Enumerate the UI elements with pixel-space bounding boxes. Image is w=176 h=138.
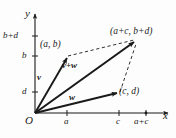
vector-arrows bbox=[35, 42, 134, 113]
x-tick-label-a: a bbox=[64, 117, 69, 126]
vector-v-plus-w-arrow bbox=[35, 42, 134, 113]
vector-label-v-plus-w: v+w bbox=[62, 61, 77, 70]
x-tick-label-a-plus-c: a+c bbox=[134, 117, 149, 126]
y-tick-label-b-plus-d: b+d bbox=[3, 31, 18, 40]
origin-label: O bbox=[25, 115, 33, 126]
point-label-ab: (a, b) bbox=[40, 40, 61, 50]
y-axis-label: y bbox=[25, 8, 30, 19]
vector-addition-figure: y x O b+d b d a c a+c (a, b) (c, d) (a+c… bbox=[0, 0, 176, 138]
x-axis-point-a-plus-c bbox=[145, 112, 148, 115]
x-tick-label-c: c bbox=[116, 117, 120, 126]
point-label-cd: (c, d) bbox=[119, 87, 139, 97]
vector-label-v: v bbox=[37, 73, 41, 82]
x-axis-label: x bbox=[163, 110, 168, 121]
point-label-sum: (a+c, b+d) bbox=[110, 27, 152, 37]
vector-label-w: w bbox=[69, 93, 75, 102]
y-tick-label-d: d bbox=[22, 87, 27, 96]
y-tick-label-b: b bbox=[22, 51, 27, 60]
